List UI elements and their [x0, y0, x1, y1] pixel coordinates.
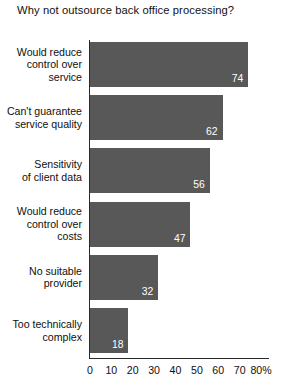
bar-category-label: Would reducecontrol overcosts: [0, 205, 82, 242]
bar-rect: 32: [90, 255, 158, 300]
bar-row: Can't guaranteeservice quality62: [0, 95, 291, 140]
x-tick-label: 20: [127, 364, 139, 377]
bar-row: Sensitivityof client data56: [0, 148, 291, 193]
bar-row: No suitableprovider32: [0, 255, 291, 300]
x-tick-label: 50: [191, 364, 203, 377]
bar-category-label: Too technicallycomplex: [0, 318, 82, 343]
bar-rect: 18: [90, 308, 128, 353]
x-tick-label: 30: [148, 364, 160, 377]
bar-chart-figure: Why not outsource back office processing…: [0, 0, 291, 392]
bar-value-label: 56: [193, 179, 205, 191]
bar-category-label: Can't guaranteeservice quality: [0, 105, 82, 130]
bar-category-label: No suitableprovider: [0, 265, 82, 290]
plot-area: Would reducecontrol overservice74Can't g…: [0, 38, 291, 360]
x-tick-label: 70: [234, 364, 246, 377]
bar-rect: 74: [90, 42, 248, 87]
bar-category-label: Sensitivityof client data: [0, 158, 82, 183]
bar-value-label: 62: [206, 126, 218, 138]
bar-row: Would reducecontrol overservice74: [0, 42, 291, 87]
x-tick-label: 60: [212, 364, 224, 377]
bar-rect: 56: [90, 148, 210, 193]
x-axis-line: [89, 358, 269, 359]
chart-title: Why not outsource back office processing…: [17, 4, 234, 17]
bar-value-label: 47: [174, 233, 186, 245]
x-tick-label: 40: [170, 364, 182, 377]
x-axis-tick-labels: 01020304050607080%: [0, 364, 291, 380]
bar-row: Would reducecontrol overcosts47: [0, 202, 291, 247]
bar-row: Too technicallycomplex18: [0, 308, 291, 353]
bar-value-label: 32: [142, 286, 154, 298]
bar-rect: 62: [90, 95, 223, 140]
x-tick-label: 10: [105, 364, 117, 377]
bar-rect: 47: [90, 202, 190, 247]
bar-value-label: 74: [232, 73, 244, 85]
bar-category-label: Would reducecontrol overservice: [0, 46, 82, 83]
x-tick-label: 0: [87, 364, 93, 377]
bar-value-label: 18: [112, 339, 124, 351]
x-tick-label: 80%: [250, 364, 271, 377]
